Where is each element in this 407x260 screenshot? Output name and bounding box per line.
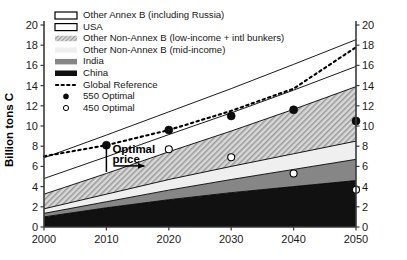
legend-swatch-other-non-annex-b-mid-income — [55, 47, 77, 53]
legend-swatch-india — [55, 59, 77, 65]
legend-label-other-annex-b-including-russia: Other Annex B (including Russia) — [83, 9, 224, 20]
legend-item-other-non-annex-b-low-income-intl-bunkers: Other Non-Annex B (low-income + intl bun… — [55, 32, 284, 43]
x-tick-label-2020: 2020 — [157, 233, 181, 245]
legend-swatch-other-annex-b-including-russia — [55, 12, 77, 19]
x-tick-label-2010: 2010 — [94, 233, 118, 245]
legend-label-usa: USA — [83, 21, 103, 32]
legend-label-china: China — [83, 67, 109, 78]
y-tick-label-right-18: 18 — [362, 39, 374, 51]
y-tick-label-right-10: 10 — [362, 120, 374, 132]
legend-swatch-usa — [55, 24, 77, 31]
legend-label-other-non-annex-b-low-income-intl-bunkers: Other Non-Annex B (low-income + intl bun… — [83, 32, 284, 43]
y-tick-label-right-2: 2 — [362, 201, 368, 213]
marker-450-optimal — [290, 170, 297, 177]
y-tick-label-left-12: 12 — [26, 100, 38, 112]
legend-label-other-non-annex-b-mid-income: Other Non-Annex B (mid-income) — [83, 44, 225, 55]
y-tick-label-right-12: 12 — [362, 100, 374, 112]
x-tick-label-2000: 2000 — [32, 233, 56, 245]
y-tick-label-right-0: 0 — [362, 221, 368, 233]
legend-swatch-other-non-annex-b-low-income-intl-bunkers — [55, 36, 77, 42]
x-tick-label-2030: 2030 — [219, 233, 243, 245]
legend-label-global-reference: Global Reference — [83, 79, 158, 90]
legend-label-india: India — [83, 55, 104, 66]
marker-450-optimal — [228, 154, 235, 161]
x-tick-label-2050: 2050 — [344, 233, 368, 245]
optimal-price-label-line2: price — [112, 153, 139, 165]
y-tick-label-left-4: 4 — [32, 181, 38, 193]
y-tick-label-right-4: 4 — [362, 181, 368, 193]
y-axis-title: Billion tons C — [3, 93, 15, 167]
y-tick-label-left-10: 10 — [26, 120, 38, 132]
y-tick-label-left-14: 14 — [26, 80, 38, 92]
y-tick-label-right-20: 20 — [362, 19, 374, 31]
marker-550-optimal — [290, 106, 298, 114]
y-tick-label-left-16: 16 — [26, 59, 38, 71]
marker-450-optimal — [165, 146, 172, 153]
chart-container: Optimalprice 024681012141618200246810121… — [0, 0, 407, 260]
y-tick-label-left-2: 2 — [32, 201, 38, 213]
y-tick-label-right-6: 6 — [362, 160, 368, 172]
marker-550-optimal — [227, 112, 235, 120]
legend-label-450-optimal: 450 Optimal — [83, 102, 135, 113]
y-tick-label-left-18: 18 — [26, 39, 38, 51]
y-tick-label-left-8: 8 — [32, 140, 38, 152]
x-tick-label-2040: 2040 — [281, 233, 305, 245]
y-tick-label-left-0: 0 — [32, 221, 38, 233]
legend-swatch-450-optimal — [63, 105, 68, 110]
y-tick-label-right-16: 16 — [362, 59, 374, 71]
legend-swatch-china — [55, 71, 77, 77]
marker-550-optimal — [165, 126, 173, 134]
y-tick-label-left-20: 20 — [26, 19, 38, 31]
y-tick-label-left-6: 6 — [32, 160, 38, 172]
y-tick-label-right-8: 8 — [362, 140, 368, 152]
y-tick-label-right-14: 14 — [362, 80, 374, 92]
emissions-stacked-area-chart: Optimalprice 024681012141618200246810121… — [0, 0, 407, 260]
legend-label-550-optimal: 550 Optimal — [83, 90, 135, 101]
legend-swatch-550-optimal — [63, 94, 68, 99]
